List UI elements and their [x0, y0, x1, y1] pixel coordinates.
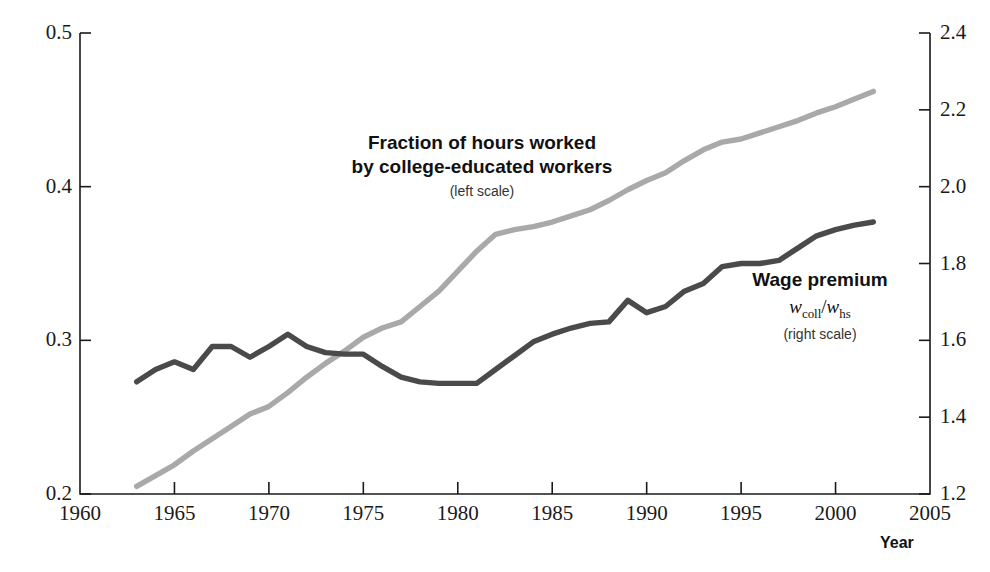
- x-tick-label: 1980: [413, 501, 503, 526]
- formula-denominator-symbol: w: [827, 296, 840, 317]
- axis-frame: [80, 33, 930, 494]
- annotation-fraction-scale-note: (left scale): [232, 182, 732, 200]
- x-tick-label: 1990: [602, 501, 692, 526]
- x-tick-label: 1985: [507, 501, 597, 526]
- formula-numerator-symbol: w: [789, 296, 802, 317]
- formula-denominator-subscript: hs: [839, 306, 850, 321]
- x-tick-label: 2005: [885, 501, 975, 526]
- x-tick-label: 2000: [791, 501, 881, 526]
- annotation-wage-scale-note: (right scale): [700, 325, 940, 343]
- y-right-tick-label: 2.2: [940, 97, 990, 122]
- x-tick-label: 1970: [224, 501, 314, 526]
- formula-numerator-subscript: coll: [802, 306, 821, 321]
- annotation-wage-formula: wcoll/whs: [700, 295, 940, 323]
- y-left-tick-label: 0.5: [12, 20, 72, 45]
- axis-ticks: [80, 33, 930, 494]
- annotation-fraction-line1: Fraction of hours worked: [232, 131, 732, 155]
- y-right-tick-label: 2.4: [940, 20, 990, 45]
- annotation-wage-premium: Wage premium wcoll/whs (right scale): [700, 268, 940, 343]
- y-right-tick-label: 1.6: [940, 327, 990, 352]
- axes-frame: [80, 33, 930, 494]
- x-tick-label: 1995: [696, 501, 786, 526]
- y-right-tick-label: 2.0: [940, 174, 990, 199]
- y-left-tick-label: 0.3: [12, 327, 72, 352]
- annotation-fraction-title: Fraction of hours worked by college-educ…: [232, 131, 732, 180]
- annotation-fraction-of-hours: Fraction of hours worked by college-educ…: [232, 131, 732, 200]
- x-tick-label: 1965: [129, 501, 219, 526]
- y-left-tick-label: 0.4: [12, 174, 72, 199]
- annotation-wage-title: Wage premium: [700, 268, 940, 292]
- y-right-tick-label: 1.4: [940, 404, 990, 429]
- x-tick-label: 1960: [35, 501, 125, 526]
- y-right-tick-label: 1.8: [940, 251, 990, 276]
- chart-figure: 0.20.30.40.51.21.41.61.82.02.22.41960196…: [0, 0, 990, 572]
- x-tick-label: 1975: [318, 501, 408, 526]
- annotation-fraction-line2: by college-educated workers: [232, 155, 732, 179]
- x-axis-title: Year: [880, 534, 914, 552]
